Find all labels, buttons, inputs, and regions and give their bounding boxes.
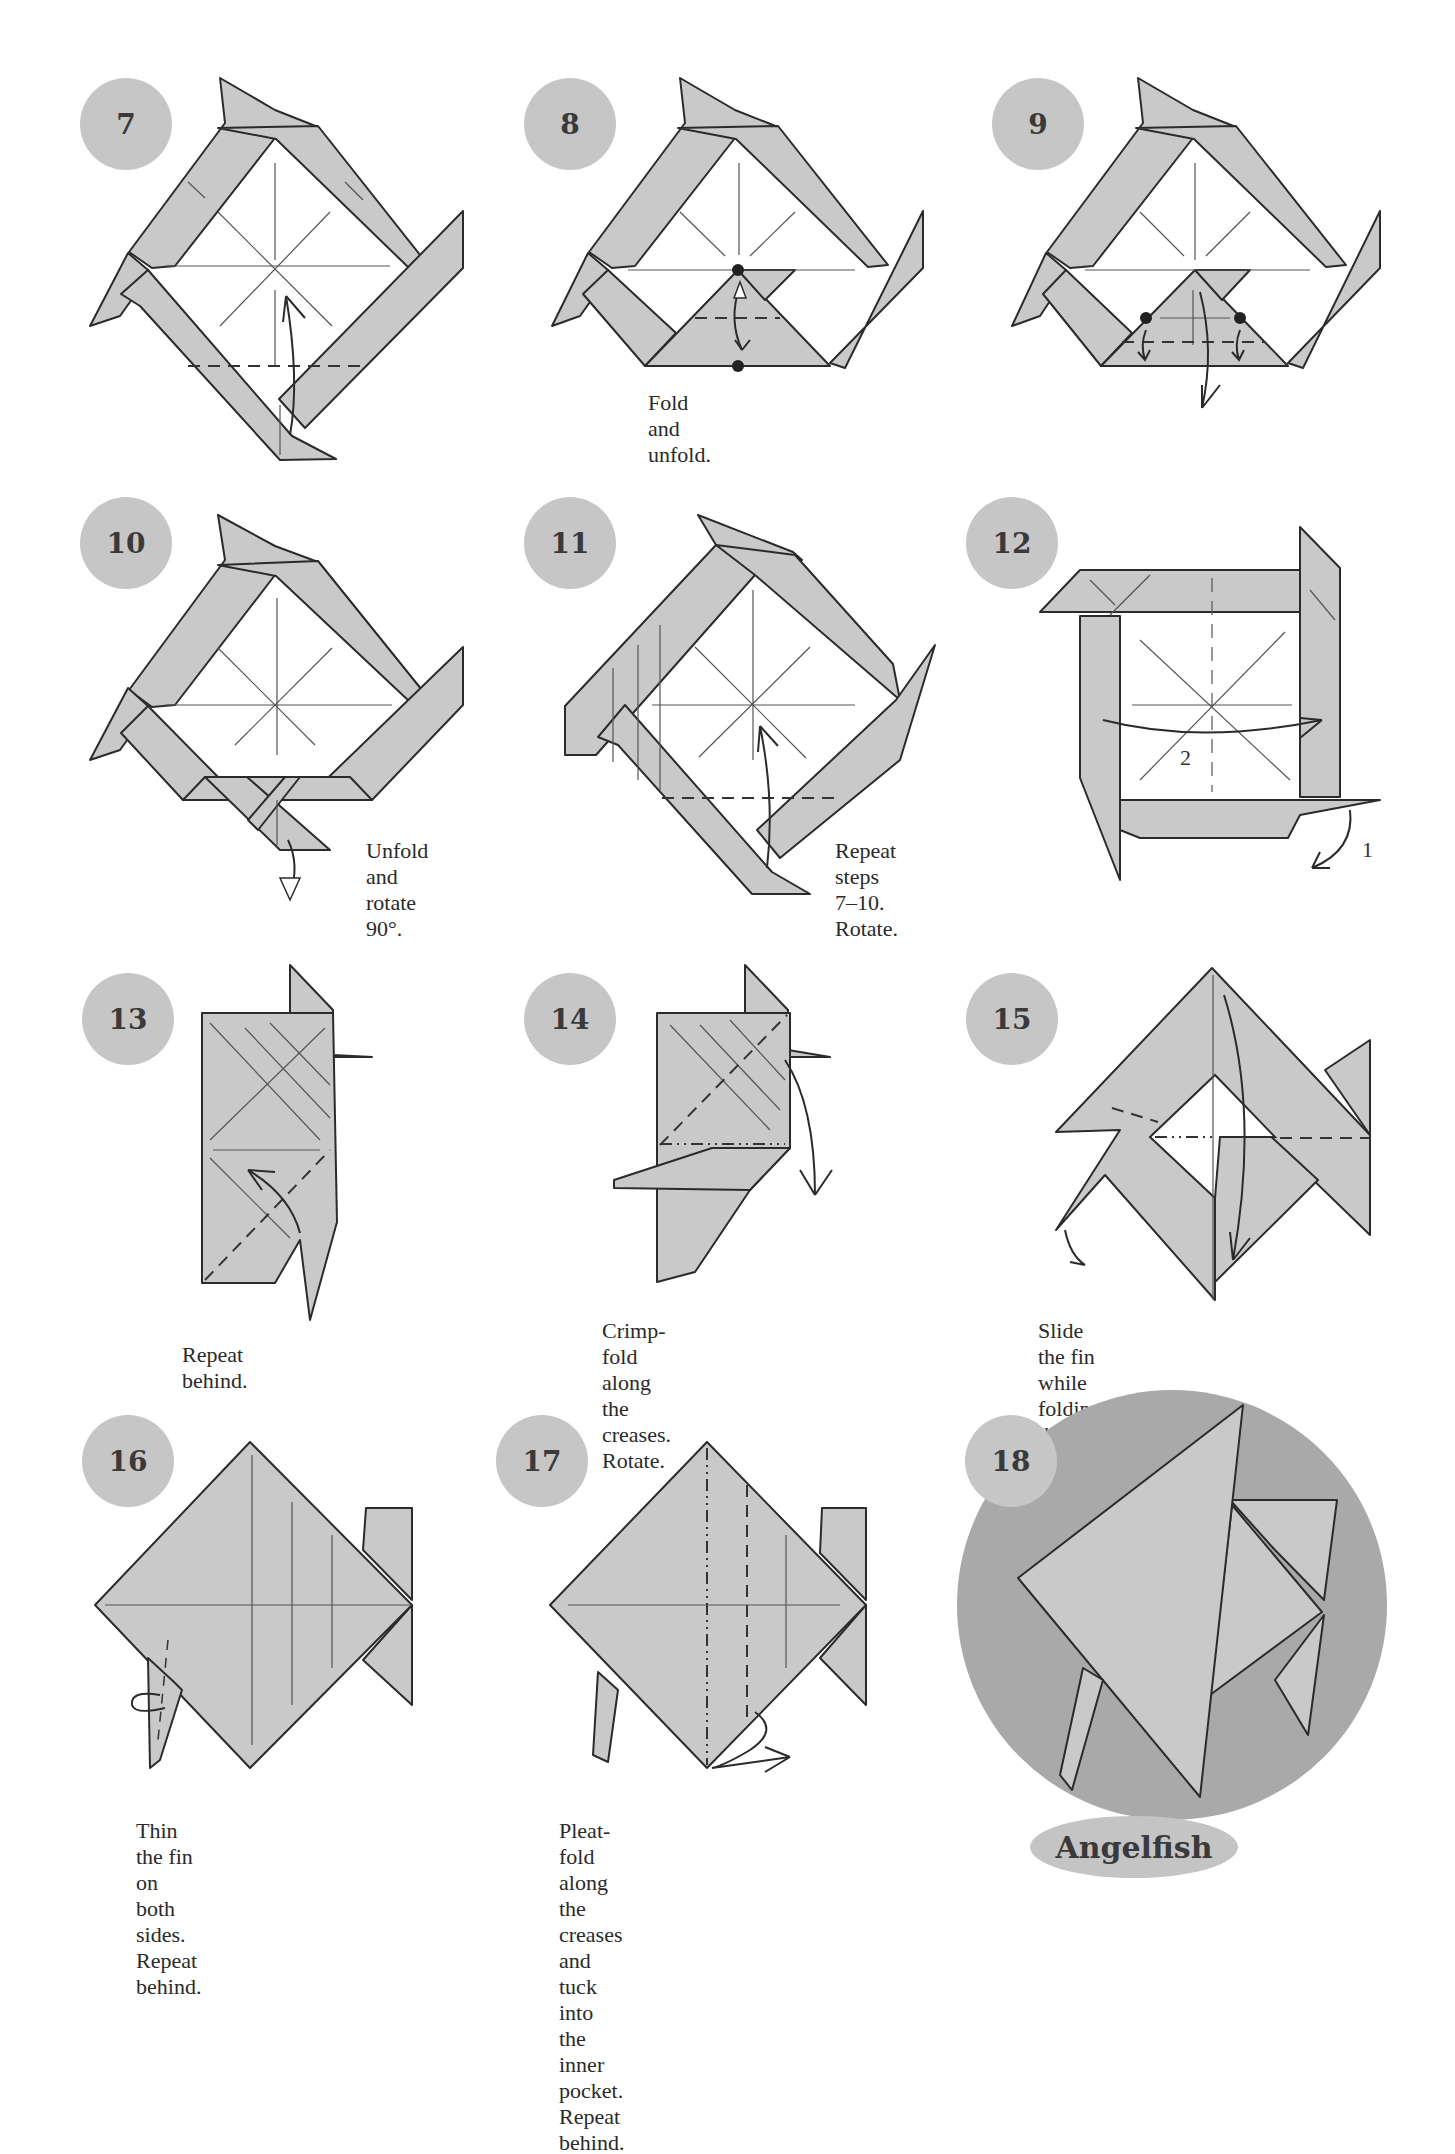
model-title: Angelfish bbox=[1030, 1816, 1238, 1878]
step-number-badge: 18 bbox=[965, 1415, 1057, 1507]
